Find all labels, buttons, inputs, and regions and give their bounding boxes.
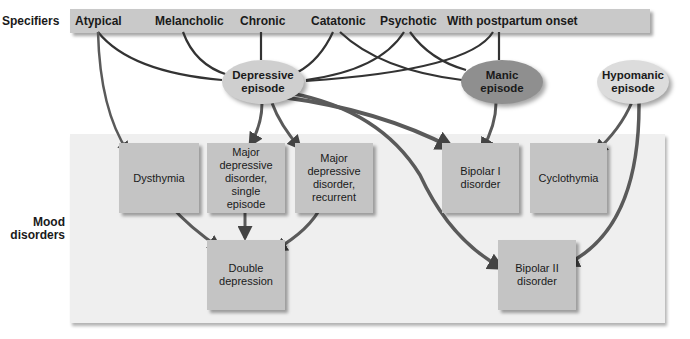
mdd-single-line1: Major <box>219 146 272 159</box>
dysthymia-label: Dysthymia <box>133 172 184 185</box>
specifier-catatonic: Catatonic <box>311 14 366 28</box>
specifier-atypical: Atypical <box>75 14 122 28</box>
mdd-recurrent-line4: recurrent <box>307 191 360 204</box>
mdd-recurrent-line3: disorder, <box>307 178 360 191</box>
mdd-single-line2: depressive <box>219 159 272 172</box>
mdd-recurrent-line2: depressive <box>307 165 360 178</box>
depressive-episode-line2: episode <box>232 82 293 95</box>
bipolar2-box: Bipolar II disorder <box>498 240 576 310</box>
cyclothymia-label: Cyclothymia <box>539 172 599 185</box>
mdd-single-line3: disorder, <box>219 172 272 185</box>
hypomanic-episode-line2: episode <box>602 82 664 95</box>
mdd-single-box: Major depressive disorder, single episod… <box>207 143 285 213</box>
cyclothymia-box: Cyclothymia <box>530 143 607 213</box>
bipolar1-line2: disorder <box>460 178 500 191</box>
bipolar1-line1: Bipolar I <box>460 165 500 178</box>
specifier-psychotic: Psychotic <box>380 14 437 28</box>
manic-episode: Manic episode <box>461 60 543 104</box>
depressive-episode: Depressive episode <box>222 60 304 104</box>
manic-episode-line1: Manic <box>480 69 523 82</box>
bipolar1-box: Bipolar I disorder <box>442 143 519 213</box>
hypomanic-episode-line1: Hypomanic <box>602 69 664 82</box>
bipolar2-line1: Bipolar II <box>515 262 558 275</box>
manic-episode-line2: episode <box>480 82 523 95</box>
hypomanic-episode: Hypomanic episode <box>597 60 669 104</box>
double-depression-box: Double depression <box>207 240 285 310</box>
mdd-recurrent-box: Major depressive disorder, recurrent <box>295 143 373 213</box>
double-depression-line1: Double <box>219 262 273 275</box>
specifier-melancholic: Melancholic <box>155 14 224 28</box>
mdd-recurrent-line1: Major <box>307 152 360 165</box>
mdd-single-line5: episode <box>219 198 272 211</box>
mdd-single-line4: single <box>219 185 272 198</box>
depressive-episode-line1: Depressive <box>232 69 293 82</box>
double-depression-line2: depression <box>219 275 273 288</box>
specifier-postpartum: With postpartum onset <box>447 14 578 28</box>
bipolar2-line2: disorder <box>515 275 558 288</box>
dysthymia-box: Dysthymia <box>119 143 199 213</box>
specifier-chronic: Chronic <box>240 14 285 28</box>
